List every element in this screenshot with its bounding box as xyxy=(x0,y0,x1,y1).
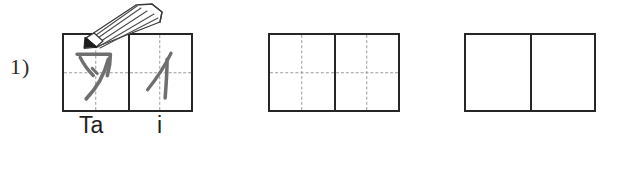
writing-grid-guided-practice[interactable] xyxy=(268,33,400,112)
katakana-ta-glyph xyxy=(64,35,128,110)
writing-cell-ta[interactable] xyxy=(64,35,128,110)
exercise-number-label: 1) xyxy=(10,56,30,78)
writing-cell-i[interactable] xyxy=(128,35,192,110)
worksheet-exercise-row: 1) xyxy=(0,0,637,169)
cell-guide-vertical-icon xyxy=(301,35,302,110)
cell-guide-horizontal-icon xyxy=(336,72,398,73)
writing-cell-practice-1[interactable] xyxy=(270,35,334,110)
writing-grid-blank-practice[interactable] xyxy=(464,33,596,112)
writing-cell-blank-2[interactable] xyxy=(530,35,594,110)
cell-guide-horizontal-icon xyxy=(270,72,334,73)
writing-cell-blank-1[interactable] xyxy=(466,35,530,110)
cell-guide-vertical-icon xyxy=(366,35,367,110)
romaji-label-ta: Ta xyxy=(79,114,103,137)
writing-grid-model[interactable] xyxy=(62,33,193,112)
katakana-i-glyph xyxy=(130,35,192,110)
writing-cell-practice-2[interactable] xyxy=(334,35,398,110)
romaji-label-i: i xyxy=(157,114,162,137)
